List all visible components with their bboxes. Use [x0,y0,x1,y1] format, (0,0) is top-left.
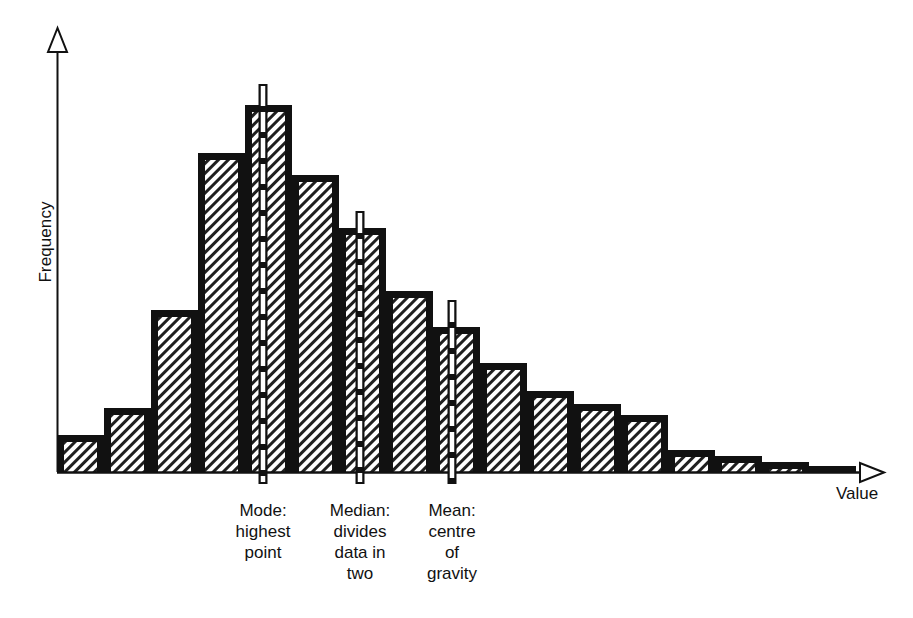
y-axis-title: Frequency [36,182,56,302]
histogram-bar [198,153,245,472]
histogram-bar [762,462,809,472]
annotation-line: two [310,563,410,584]
annotation-line: centre [402,521,502,542]
histogram-bar [57,435,104,472]
annotation-line: Median: [310,500,410,521]
histogram-bar [621,415,668,472]
histogram-bar [668,450,715,472]
annotation-line: gravity [402,563,502,584]
histogram-bar [574,404,621,472]
x-axis-arrowhead [860,463,884,482]
histogram-bar [151,310,198,472]
annotation-line: of [402,542,502,563]
annotation-line: divides [310,521,410,542]
annotation-line: Mode: [213,500,313,521]
annotation-line: point [213,542,313,563]
annotation-mode: Mode:highestpoint [213,500,313,563]
histogram-bar [245,105,292,472]
annotation-line: Mean: [402,500,502,521]
histogram-bar [480,363,527,472]
histogram-bar [292,175,339,472]
histogram-bar [715,456,762,472]
histogram-bar [104,408,151,472]
annotation-line: data in [310,542,410,563]
histogram-figure: Frequency Value Mode:highestpoint Median… [0,0,913,618]
annotation-line: highest [213,521,313,542]
annotation-mean: Mean:centreofgravity [402,500,502,584]
histogram-bar [809,466,856,472]
x-axis-title: Value [836,484,878,504]
annotation-median: Median:dividesdata intwo [310,500,410,584]
y-axis-arrowhead [48,28,67,52]
histogram-bar [386,291,433,472]
histogram-bar [527,391,574,472]
